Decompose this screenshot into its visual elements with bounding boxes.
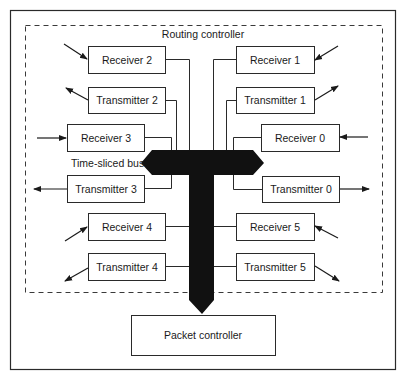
svg-text:Transmitter 1: Transmitter 1: [244, 94, 306, 106]
unit-receiver-5: Receiver 5: [237, 214, 339, 241]
svg-text:Transmitter 4: Transmitter 4: [96, 261, 158, 273]
unit-receiver-2: Receiver 2: [64, 44, 166, 74]
svg-text:Transmitter 5: Transmitter 5: [244, 261, 306, 273]
svg-text:Receiver 5: Receiver 5: [250, 221, 300, 233]
unit-transmitter-0: Transmitter 0: [263, 177, 370, 203]
svg-text:Transmitter 3: Transmitter 3: [75, 183, 137, 195]
input-arrow-icon: [315, 226, 338, 238]
input-arrow-icon: [64, 44, 87, 59]
input-arrow-icon: [315, 46, 338, 60]
svg-text:Receiver 1: Receiver 1: [250, 54, 300, 66]
svg-text:Receiver 4: Receiver 4: [102, 221, 152, 233]
unit-transmitter-2: Transmitter 2: [66, 88, 166, 114]
output-arrow-icon: [65, 268, 88, 281]
unit-transmitter-1: Transmitter 1: [237, 86, 339, 114]
svg-text:Receiver 2: Receiver 2: [102, 54, 152, 66]
routing-controller-label: Routing controller: [162, 28, 245, 40]
unit-receiver-0: Receiver 0: [262, 125, 369, 152]
unit-receiver-4: Receiver 4: [65, 214, 166, 242]
bus-label: Time-sliced bus: [71, 157, 144, 169]
svg-text:Transmitter 0: Transmitter 0: [270, 183, 332, 195]
unit-receiver-1: Receiver 1: [237, 46, 339, 74]
unit-receiver-3: Receiver 3: [37, 125, 145, 152]
unit-transmitter-5: Transmitter 5: [237, 254, 340, 282]
svg-text:Receiver 0: Receiver 0: [275, 132, 325, 144]
unit-transmitter-3: Transmitter 3: [34, 176, 145, 203]
unit-transmitter-4: Transmitter 4: [65, 254, 166, 282]
output-arrow-icon: [315, 86, 338, 100]
output-arrow-icon: [315, 266, 339, 281]
svg-text:Receiver 3: Receiver 3: [81, 132, 131, 144]
svg-text:Transmitter 2: Transmitter 2: [96, 94, 158, 106]
input-arrow-icon: [65, 227, 87, 241]
output-arrow-icon: [66, 88, 88, 100]
network-interface-diagram: Routing controller Time-sliced bus Recei…: [0, 0, 405, 375]
packet-controller-label: Packet controller: [164, 329, 243, 341]
